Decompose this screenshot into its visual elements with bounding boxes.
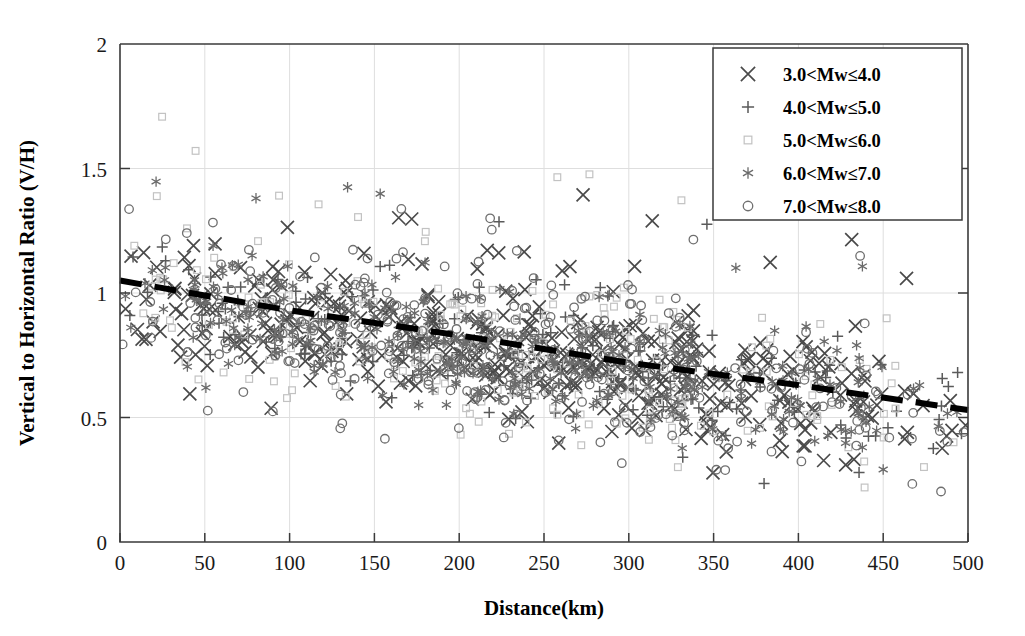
chart-figure: 050100150200250300350400450500 00.511.52…	[0, 0, 1025, 636]
y-tick-label: 1	[97, 282, 108, 306]
x-tick-label: 100	[274, 551, 306, 575]
legend-label: 6.0<Mw≤7.0	[783, 164, 881, 184]
y-tick-label: 0	[97, 531, 108, 555]
x-tick-label: 400	[783, 551, 815, 575]
x-axis-title: Distance(km)	[484, 596, 604, 620]
legend-label: 4.0<Mw≤5.0	[783, 98, 881, 118]
x-tick-label: 50	[194, 551, 215, 575]
legend: 3.0<Mw≤4.04.0<Mw≤5.05.0<Mw≤6.06.0<Mw≤7.0…	[713, 48, 962, 220]
legend-label: 7.0<Mw≤8.0	[783, 197, 881, 217]
y-tick-label: 2	[97, 33, 108, 57]
scatter-plot: 050100150200250300350400450500 00.511.52…	[0, 0, 1025, 636]
legend-label: 3.0<Mw≤4.0	[783, 65, 881, 85]
x-tick-label: 250	[528, 551, 560, 575]
y-tick-label: 1.5	[81, 158, 107, 182]
y-axis-title: Vertical to Horizontal Ratio (V/H)	[15, 140, 39, 446]
x-tick-label: 200	[443, 551, 475, 575]
y-tick-label: 0.5	[81, 407, 107, 431]
x-tick-label: 0	[115, 551, 126, 575]
x-tick-label: 300	[613, 551, 645, 575]
x-tick-label: 450	[867, 551, 899, 575]
x-tick-label: 350	[698, 551, 730, 575]
legend-label: 5.0<Mw≤6.0	[783, 131, 881, 151]
x-tick-label: 150	[359, 551, 391, 575]
x-tick-label: 500	[952, 551, 984, 575]
